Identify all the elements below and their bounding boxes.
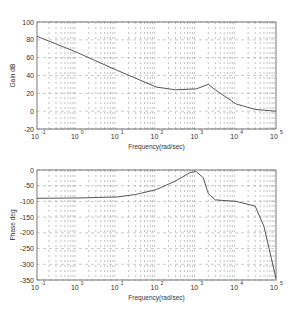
svg-text:4: 4 bbox=[240, 129, 243, 135]
svg-text:0: 0 bbox=[81, 280, 84, 286]
x-tick-label: 10 bbox=[111, 133, 119, 140]
y-tick-label: 20 bbox=[26, 90, 34, 97]
y-tick-label: -250 bbox=[20, 245, 34, 252]
x-tick-label: 10 bbox=[230, 284, 238, 291]
x-tick-label: 10 bbox=[190, 284, 198, 291]
x-tick-label: 10 bbox=[270, 284, 278, 291]
y-tick-label: 80 bbox=[26, 36, 34, 43]
y-tick-label: -20 bbox=[24, 126, 34, 133]
y-tick-label: -50 bbox=[24, 182, 34, 189]
x-tick-label: 10 bbox=[190, 133, 198, 140]
y-tick-label: -100 bbox=[20, 198, 34, 205]
x-axis-label: Frequency(rad/sec) bbox=[128, 143, 184, 151]
svg-text:5: 5 bbox=[280, 129, 283, 135]
bode-plot: 100806040200-2010-1100101102103104105Fre… bbox=[0, 0, 297, 310]
svg-text:4: 4 bbox=[240, 280, 243, 286]
y-tick-label: -150 bbox=[20, 214, 34, 221]
svg-text:1: 1 bbox=[121, 129, 124, 135]
svg-text:-1: -1 bbox=[41, 129, 46, 135]
x-tick-label: 10 bbox=[31, 284, 39, 291]
x-axis-label: Frequency(rad/sec) bbox=[128, 294, 184, 302]
y-tick-label: 100 bbox=[22, 19, 34, 26]
svg-text:1: 1 bbox=[121, 280, 124, 286]
y-tick-label: -300 bbox=[20, 261, 34, 268]
x-tick-label: 10 bbox=[151, 284, 159, 291]
svg-text:2: 2 bbox=[161, 129, 164, 135]
svg-text:-1: -1 bbox=[41, 280, 46, 286]
x-tick-label: 10 bbox=[270, 133, 278, 140]
x-tick-label: 10 bbox=[71, 133, 79, 140]
y-tick-label: 60 bbox=[26, 54, 34, 61]
y-tick-label: -200 bbox=[20, 229, 34, 236]
x-tick-label: 10 bbox=[111, 284, 119, 291]
x-tick-label: 10 bbox=[230, 133, 238, 140]
svg-text:2: 2 bbox=[161, 280, 164, 286]
svg-text:0: 0 bbox=[81, 129, 84, 135]
phase-plot: 0-50-100-150-200-250-300-35010-110010110… bbox=[9, 167, 283, 303]
y-tick-label: 40 bbox=[26, 72, 34, 79]
x-tick-label: 10 bbox=[71, 284, 79, 291]
y-axis-label: Phase deg bbox=[9, 209, 17, 240]
x-tick-label: 10 bbox=[31, 133, 39, 140]
x-tick-label: 10 bbox=[151, 133, 159, 140]
y-axis-label: Gain dB bbox=[9, 64, 16, 88]
svg-text:5: 5 bbox=[280, 280, 283, 286]
svg-text:3: 3 bbox=[200, 280, 203, 286]
y-tick-label: 0 bbox=[30, 167, 34, 174]
gain-plot: 100806040200-2010-1100101102103104105Fre… bbox=[9, 19, 283, 152]
svg-text:3: 3 bbox=[200, 129, 203, 135]
y-tick-label: -350 bbox=[20, 277, 34, 284]
y-tick-label: 0 bbox=[30, 108, 34, 115]
